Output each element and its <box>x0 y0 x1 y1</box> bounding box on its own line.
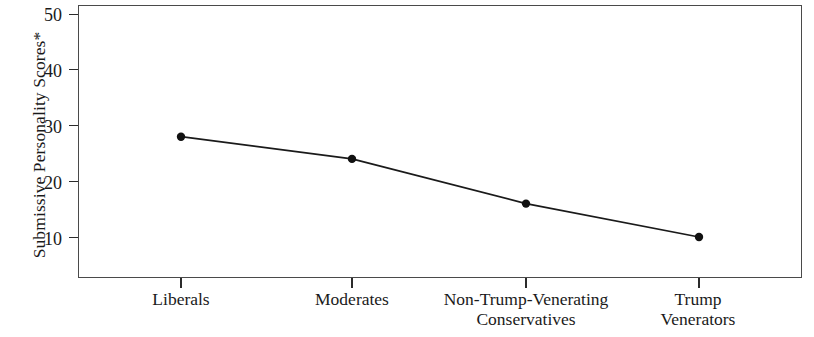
chart-figure: Submissive Personality Scores* 10 20 30 … <box>0 0 814 337</box>
x-tick-mark-non-trump-venerating-conservatives <box>525 278 527 288</box>
y-tick-mark-50 <box>69 14 78 15</box>
x-tick-label-non-trump-venerating-conservatives: Non-Trump-Venerating Conservatives <box>406 289 646 329</box>
y-tick-mark-10 <box>69 237 78 238</box>
x-tick-label-trump-venerators: Trump Venerators <box>628 289 768 329</box>
x-tick-mark-liberals <box>180 278 182 288</box>
y-tick-mark-30 <box>69 125 78 126</box>
y-tick-mark-20 <box>69 181 78 182</box>
y-tick-mark-40 <box>69 69 78 70</box>
x-tick-mark-moderates <box>351 278 353 288</box>
plot-area-frame <box>78 5 802 278</box>
x-tick-mark-trump-venerators <box>698 278 700 288</box>
x-tick-label-liberals: Liberals <box>101 289 261 309</box>
